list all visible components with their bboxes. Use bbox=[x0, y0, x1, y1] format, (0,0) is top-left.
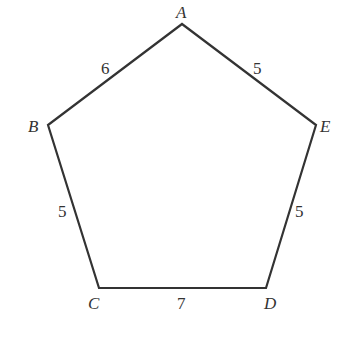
edge-label-de: 5 bbox=[295, 202, 304, 221]
edge-label-cd: 7 bbox=[177, 294, 186, 313]
pentagon-shape bbox=[48, 24, 316, 288]
vertex-label-e: E bbox=[319, 117, 331, 136]
edge-label-ab: 6 bbox=[101, 59, 110, 78]
vertex-label-a: A bbox=[175, 3, 187, 22]
vertex-label-d: D bbox=[263, 294, 277, 313]
edge-label-ea: 5 bbox=[253, 59, 262, 78]
vertex-label-b: B bbox=[28, 117, 39, 136]
edge-label-bc: 5 bbox=[58, 202, 67, 221]
pentagon-diagram: A B C D E 6 5 7 5 5 bbox=[0, 0, 353, 342]
vertex-label-c: C bbox=[88, 294, 100, 313]
